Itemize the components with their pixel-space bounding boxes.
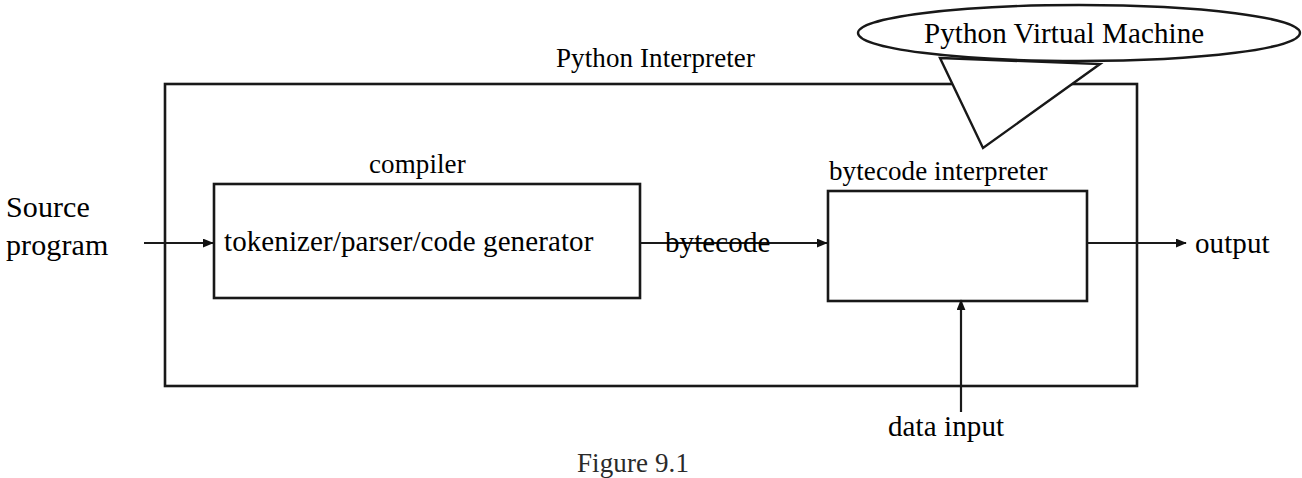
source-program-line-2: program: [6, 228, 108, 261]
figure-caption: Figure 9.1: [577, 450, 689, 477]
bytecode-label: bytecode: [665, 228, 770, 257]
python-virtual-machine-label: Python Virtual Machine: [924, 19, 1204, 48]
compiler-label: compiler: [369, 151, 466, 178]
bytecode-interpreter-box: [828, 191, 1087, 301]
output-label: output: [1195, 229, 1270, 258]
data-input-label: data input: [888, 412, 1004, 441]
callout-tail: [940, 58, 1100, 148]
bytecode-interpreter-label: bytecode interpreter: [829, 158, 1048, 185]
source-program-label: Sourceprogram: [6, 188, 108, 264]
python-interpreter-label: Python Interpreter: [556, 45, 755, 72]
source-program-line-1: Source: [6, 190, 90, 223]
tokenizer-parser-codegen-label: tokenizer/parser/code generator: [224, 227, 593, 256]
